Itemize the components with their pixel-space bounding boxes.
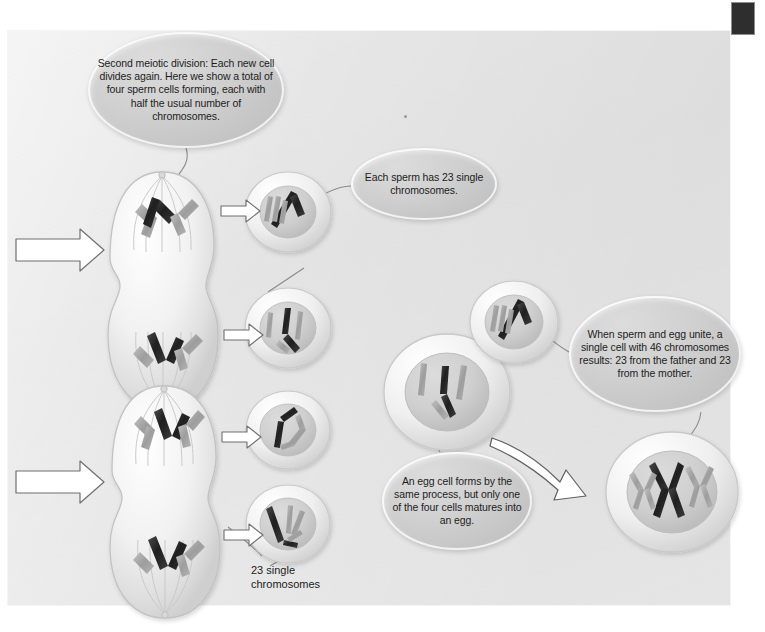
callout-second-meiotic-division: Second meiotic division: Each new cell d…: [88, 32, 284, 148]
callout-text: Each sperm has 23 single chromosomes.: [351, 171, 497, 197]
callout-an-egg-cell: An egg cell forms by the same process, b…: [382, 452, 532, 550]
callout-text: An egg cell forms by the same process, b…: [382, 475, 532, 528]
callout-text: When sperm and egg unite, a single cell …: [569, 328, 741, 381]
callout-each-sperm-23: Each sperm has 23 single chromosomes.: [351, 148, 497, 220]
scan-speck: [404, 115, 407, 118]
label-23-single-chromosomes: 23 single chromosomes: [251, 563, 361, 592]
callout-text: Second meiotic division: Each new cell d…: [88, 57, 284, 123]
scan-edge-marker: [731, 2, 755, 35]
callout-when-sperm-and-egg-unite: When sperm and egg unite, a single cell …: [569, 296, 741, 412]
figure-canvas: Second meiotic division: Each new cell d…: [0, 0, 765, 632]
